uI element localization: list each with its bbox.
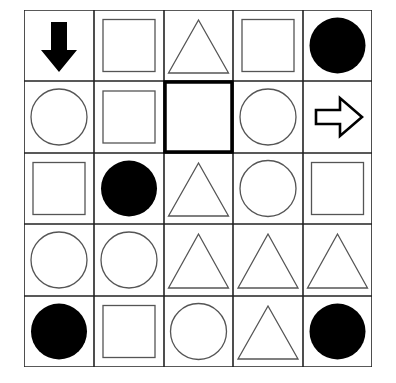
filled-circle-icon	[31, 304, 87, 360]
grid-cell[interactable]	[233, 81, 303, 153]
grid-cell[interactable]	[24, 153, 94, 224]
grid-canvas	[24, 10, 372, 367]
grid-cell[interactable]	[233, 10, 303, 81]
grid-cell[interactable]	[233, 224, 303, 296]
filled-circle-icon	[310, 18, 366, 74]
grid-cell[interactable]	[24, 10, 94, 81]
grid-cell[interactable]	[233, 296, 303, 367]
grid-cell[interactable]	[303, 10, 372, 81]
grid-cell[interactable]	[164, 296, 233, 367]
grid-cell[interactable]	[303, 224, 372, 296]
grid-cell[interactable]	[164, 153, 233, 224]
grid-cell[interactable]	[24, 296, 94, 367]
puzzle-grid	[24, 10, 372, 367]
grid-cell[interactable]	[94, 224, 164, 296]
grid-cell[interactable]	[94, 10, 164, 81]
grid-cell[interactable]	[233, 153, 303, 224]
grid-cell[interactable]	[164, 81, 233, 153]
grid-cell[interactable]	[164, 10, 233, 81]
filled-circle-icon	[310, 304, 366, 360]
grid-cell[interactable]	[303, 81, 372, 153]
grid-cell[interactable]	[24, 81, 94, 153]
filled-circle-icon	[101, 161, 157, 217]
grid-cell[interactable]	[164, 224, 233, 296]
grid-cell[interactable]	[303, 153, 372, 224]
grid-cell[interactable]	[94, 153, 164, 224]
grid-cell[interactable]	[94, 296, 164, 367]
grid-cell[interactable]	[24, 224, 94, 296]
grid-cell[interactable]	[94, 81, 164, 153]
grid-cell[interactable]	[303, 296, 372, 367]
